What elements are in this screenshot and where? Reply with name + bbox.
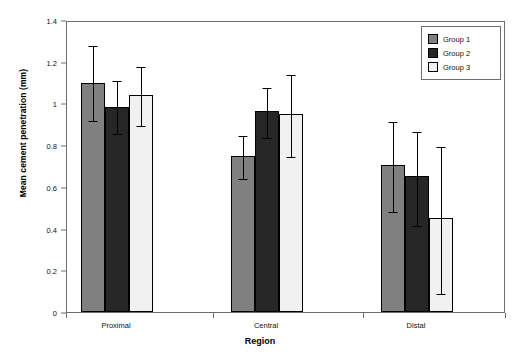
y-tick-label: 0.6 [47,183,57,192]
x-tick-mark [66,313,67,318]
y-tick-label: 1.2 [47,58,57,67]
x-category-label: Distal [356,321,476,330]
y-tick-label: 1 [53,100,57,109]
legend-label: Group 2 [443,49,470,58]
x-tick-mark [213,313,214,318]
y-tick-label: 0.4 [47,225,57,234]
y-tick-label: 0.2 [47,267,57,276]
x-axis-title: Region [0,336,520,346]
y-tick-label: 1.4 [47,17,57,26]
legend-item: Group 3 [428,60,494,74]
legend: Group 1Group 2Group 3 [421,26,501,80]
chart-figure: Mean cement penetration (mm) 00.20.40.60… [0,0,520,356]
legend-label: Group 1 [443,35,470,44]
legend-swatch [428,62,438,72]
legend-item: Group 1 [428,32,494,46]
y-axis-ticks: 00.20.40.60.811.21.4 [0,0,66,292]
y-tick-label: 0 [53,309,57,318]
legend-swatch [428,34,438,44]
legend-item: Group 2 [428,46,494,60]
legend-label: Group 3 [443,63,470,72]
y-tick-label: 0.8 [47,142,57,151]
x-category-label: Proximal [56,321,176,330]
x-category-label: Central [206,321,326,330]
x-tick-mark [505,313,506,318]
x-tick-mark [363,313,364,318]
legend-swatch [428,48,438,58]
